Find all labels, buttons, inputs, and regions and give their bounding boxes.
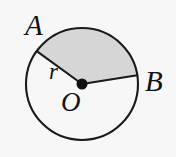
figure-container: A B r O bbox=[0, 0, 176, 157]
label-radius-r: r bbox=[49, 60, 58, 83]
label-point-b: B bbox=[145, 67, 163, 96]
label-point-a: A bbox=[25, 11, 43, 40]
label-center-o: O bbox=[61, 89, 81, 116]
